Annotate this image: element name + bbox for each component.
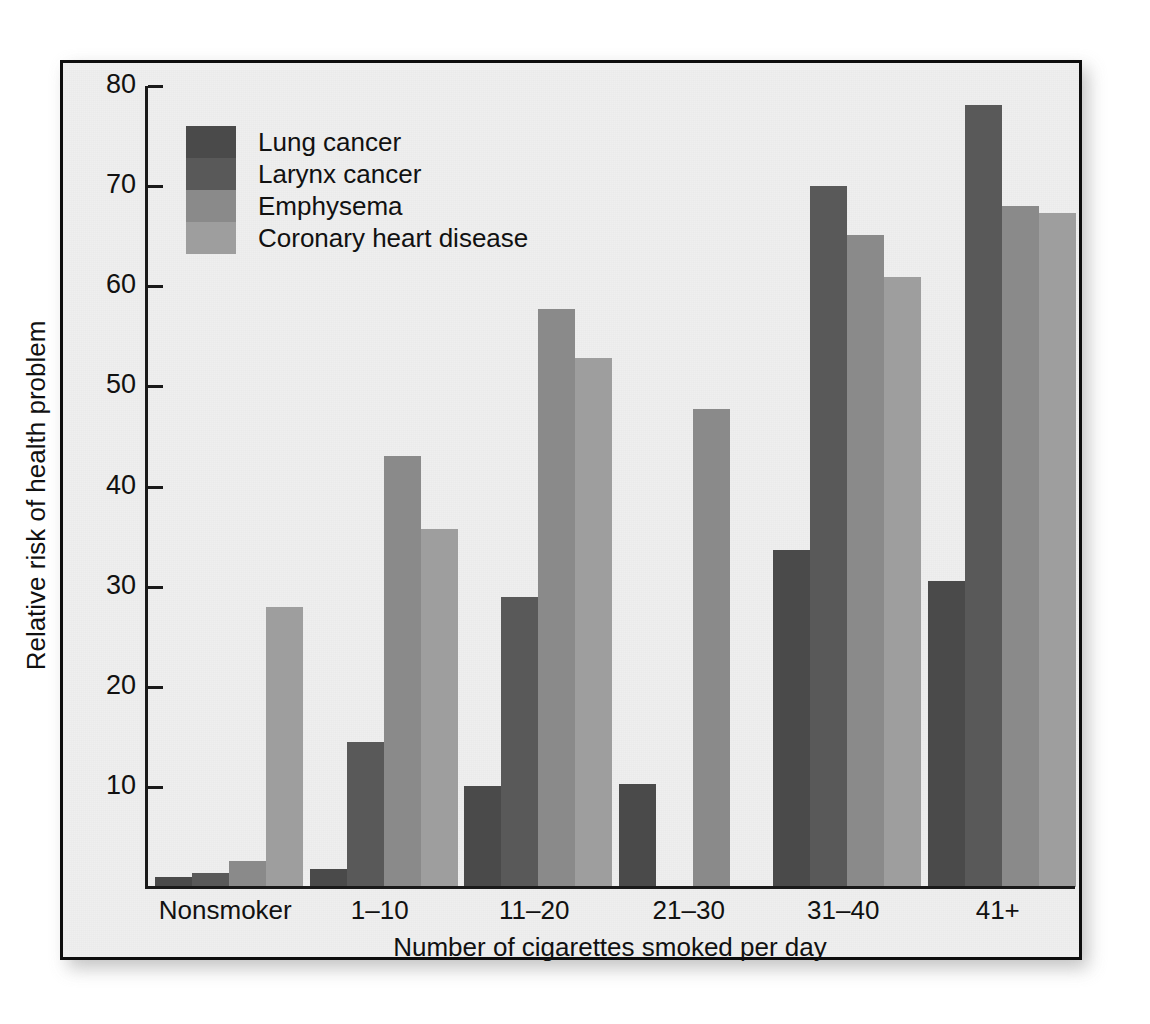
y-axis-tick (148, 686, 163, 689)
bar (928, 581, 965, 887)
legend-label: Lung cancer (258, 126, 528, 158)
legend-label: Emphysema (258, 190, 528, 222)
bars-layer (0, 0, 1150, 887)
bar (266, 607, 303, 887)
x-axis-category-label: 11–20 (457, 895, 612, 926)
y-axis-tick (148, 285, 163, 288)
bar (773, 550, 810, 887)
legend-swatch (186, 158, 236, 190)
legend-swatch-stack (186, 126, 236, 254)
bar (310, 869, 347, 887)
y-axis-tick (148, 185, 163, 188)
y-axis-tick (148, 486, 163, 489)
chart-legend: Lung cancerLarynx cancerEmphysemaCoronar… (186, 126, 528, 254)
bar (810, 186, 847, 887)
y-axis-tick-label: 50 (80, 371, 136, 398)
y-axis-title: Relative risk of health problem (21, 176, 52, 816)
bar (501, 597, 538, 887)
bar (693, 409, 730, 887)
bar (847, 235, 884, 887)
x-axis-category-label: 31–40 (766, 895, 921, 926)
x-axis-category-label: 1–10 (303, 895, 458, 926)
bar (421, 529, 458, 887)
bar (347, 742, 384, 887)
legend-swatch (186, 222, 236, 254)
y-axis-tick (148, 786, 163, 789)
bar (1039, 213, 1076, 887)
bar (1002, 206, 1039, 887)
chart-plot-area: 1020304050607080 Nonsmoker1–1011–2021–30… (0, 0, 1150, 1024)
x-axis-category-label: 41+ (921, 895, 1076, 926)
legend-label: Coronary heart disease (258, 222, 528, 254)
legend-swatch (186, 126, 236, 158)
x-axis-category-label: Nonsmoker (148, 895, 303, 926)
bar (229, 861, 266, 887)
y-axis-tick-label: 40 (80, 472, 136, 499)
y-axis-tick-label: 20 (80, 672, 136, 699)
bar (464, 786, 501, 887)
legend-label-stack: Lung cancerLarynx cancerEmphysemaCoronar… (258, 126, 528, 254)
y-axis-tick (148, 385, 163, 388)
legend-swatch (186, 190, 236, 222)
y-axis-tick-label: 70 (80, 171, 136, 198)
y-axis-tick-label: 80 (80, 71, 136, 98)
x-axis-line (145, 886, 1075, 889)
bar (192, 873, 229, 887)
y-axis-tick (148, 586, 163, 589)
bar (965, 105, 1002, 887)
y-axis-tick-label: 10 (80, 772, 136, 799)
bar (538, 309, 575, 887)
bar (384, 456, 421, 887)
x-axis-title: Number of cigarettes smoked per day (145, 932, 1075, 963)
x-axis-category-label: 21–30 (612, 895, 767, 926)
bar (575, 358, 612, 887)
y-axis-tick-label: 30 (80, 572, 136, 599)
legend-label: Larynx cancer (258, 158, 528, 190)
bar (884, 277, 921, 887)
bar (619, 784, 656, 887)
y-axis-tick-label: 60 (80, 271, 136, 298)
y-axis-tick (148, 85, 163, 88)
